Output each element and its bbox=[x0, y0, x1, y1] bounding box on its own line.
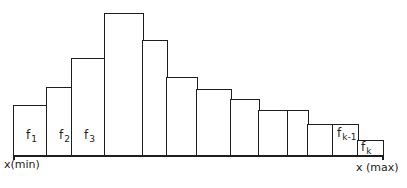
histogram-bar bbox=[307, 124, 334, 155]
histogram-bar bbox=[258, 110, 289, 155]
histogram-bar bbox=[166, 77, 198, 155]
x-min-label: x(min) bbox=[4, 158, 40, 171]
histogram-bar bbox=[104, 13, 144, 155]
frequency-label: f2 bbox=[59, 128, 70, 144]
frequency-label: fk-1 bbox=[337, 126, 356, 142]
x-max-label: x (max) bbox=[356, 161, 399, 174]
frequency-label: f1 bbox=[26, 128, 37, 144]
frequency-label: f3 bbox=[84, 128, 95, 144]
histogram-bar bbox=[46, 87, 73, 155]
histogram-bar bbox=[196, 89, 232, 155]
histogram-bar bbox=[287, 110, 309, 155]
histogram-bar bbox=[142, 40, 168, 155]
histogram-diagram: f1f2f3fk-1fk bbox=[0, 0, 407, 188]
axis-tick bbox=[382, 155, 384, 160]
x-axis-baseline bbox=[13, 155, 384, 157]
histogram-bar bbox=[230, 99, 260, 155]
frequency-label: fk bbox=[361, 140, 371, 156]
